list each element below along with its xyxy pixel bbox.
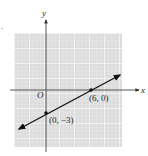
point-6-0 xyxy=(89,88,93,92)
origin-label: O xyxy=(37,90,44,100)
coordinate-plane: . y x O (6, 0) (0, −3) xyxy=(0,0,148,156)
x-axis-label: x xyxy=(140,85,145,95)
point-0-neg3 xyxy=(44,111,48,115)
y-axis-label: y xyxy=(41,8,46,18)
fragment-label: . xyxy=(1,21,3,31)
point-label-6-0: (6, 0) xyxy=(89,93,109,103)
point-label-0-neg3: (0, −3) xyxy=(49,115,74,125)
